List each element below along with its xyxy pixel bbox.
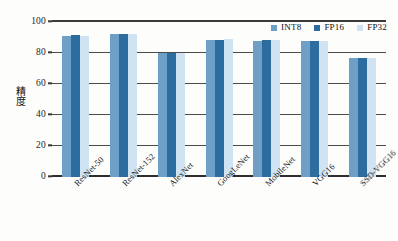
bar-fp32-1 — [128, 34, 137, 177]
x-axis-labels: ResNet-50ResNet-152AlexNetGoogLeNetMobil… — [52, 179, 386, 239]
bar-group — [147, 22, 195, 177]
legend-label: FP32 — [367, 23, 387, 32]
bar-fp16-3 — [215, 40, 224, 177]
bar-group — [52, 22, 100, 177]
x-label-cell: ResNet-152 — [100, 179, 148, 239]
bar-group — [291, 22, 339, 177]
bar-groups — [52, 22, 386, 177]
bar-fp16-4 — [262, 40, 271, 177]
bar-fp32-4 — [271, 40, 280, 177]
bar-int8-3 — [206, 40, 215, 177]
x-label-cell: MobileNet — [243, 179, 291, 239]
bar-group — [195, 22, 243, 177]
y-tick-label-100: 100 — [31, 16, 46, 26]
bar-fp32-5 — [319, 41, 328, 177]
legend-label: FP16 — [324, 23, 344, 32]
bar-int8-4 — [253, 41, 262, 177]
y-tick-label-0: 0 — [41, 171, 46, 181]
y-tick-label-20: 20 — [36, 140, 46, 150]
bar-fp32-3 — [224, 39, 233, 177]
y-tick-label-60: 60 — [36, 78, 46, 88]
bar-group — [243, 22, 291, 177]
plot-area: 020406080100 — [52, 22, 386, 177]
bar-int8-2 — [158, 53, 167, 177]
legend-item-fp16: FP16 — [314, 23, 344, 32]
legend-label: INT8 — [281, 23, 301, 32]
chart-legend: INT8FP16FP32 — [271, 23, 387, 32]
bar-fp16-2 — [167, 53, 176, 177]
legend-swatch-icon — [314, 25, 320, 31]
legend-swatch-icon — [357, 25, 363, 31]
bar-fp16-0 — [71, 35, 80, 177]
bar-fp32-6 — [367, 58, 376, 177]
bar-int8-0 — [62, 36, 71, 177]
bar-fp32-0 — [80, 36, 89, 177]
bar-fp16-6 — [358, 58, 367, 177]
bar-fp32-2 — [176, 53, 185, 177]
x-label-cell: AlexNet — [147, 179, 195, 239]
x-label-cell: ResNet-50 — [52, 179, 100, 239]
bar-group — [100, 22, 148, 177]
y-tick-label-40: 40 — [36, 109, 46, 119]
legend-item-int8: INT8 — [271, 23, 301, 32]
x-label-cell: SSD-VGG16 — [338, 179, 386, 239]
y-tick-label-80: 80 — [36, 47, 46, 57]
x-label-cell: GoogLeNet — [195, 179, 243, 239]
legend-swatch-icon — [271, 25, 277, 31]
bar-int8-1 — [110, 34, 119, 177]
bar-fp16-1 — [119, 34, 128, 177]
legend-item-fp32: FP32 — [357, 23, 387, 32]
x-label-cell: VGG16 — [291, 179, 339, 239]
bar-fp16-5 — [310, 41, 319, 177]
y-axis-title: 精度 — [14, 86, 24, 106]
bar-group — [338, 22, 386, 177]
bar-int8-5 — [301, 41, 310, 177]
bar-int8-6 — [349, 58, 358, 177]
